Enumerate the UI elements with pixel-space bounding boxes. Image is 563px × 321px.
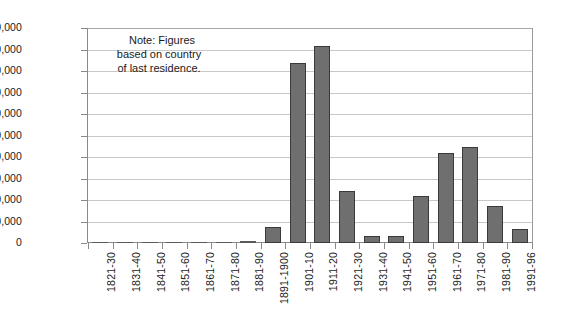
y-axis-label: 120,000 <box>0 107 22 119</box>
bar <box>487 206 503 243</box>
x-axis-tick <box>261 243 262 249</box>
x-axis-label: 1851-60 <box>179 252 191 292</box>
bar-slot <box>507 28 532 243</box>
y-axis-label: 80,000 <box>0 150 22 162</box>
bar-slot <box>335 28 360 243</box>
y-axis-label: 100,000 <box>0 129 22 141</box>
y-axis-tick <box>81 114 87 115</box>
bar <box>166 242 182 243</box>
x-axis-tick <box>359 243 360 249</box>
x-axis-tick <box>285 243 286 249</box>
x-axis-label: 1861-70 <box>204 252 216 292</box>
x-axis-tick <box>88 243 89 249</box>
bar <box>388 236 404 243</box>
bar-slot <box>433 28 458 243</box>
y-axis-label: 40,000 <box>0 193 22 205</box>
bar <box>191 242 207 243</box>
x-axis-tick <box>137 243 138 249</box>
chart-note-line-2: based on country <box>99 47 219 61</box>
x-axis-tick <box>162 243 163 249</box>
y-axis-label: 60,000 <box>0 172 22 184</box>
x-axis-label: 1931-40 <box>377 252 389 292</box>
x-axis-label: 1961-70 <box>451 252 463 292</box>
x-axis-label: 1841-50 <box>155 252 167 292</box>
x-axis-tick <box>113 243 114 249</box>
x-axis-label: 1891-1900 <box>278 252 290 304</box>
bar <box>438 153 454 243</box>
y-axis-tick <box>81 157 87 158</box>
x-axis-label: 1921-30 <box>352 252 364 292</box>
bar <box>314 46 330 243</box>
x-axis-label: 1941-50 <box>401 252 413 292</box>
bar-slot <box>285 28 310 243</box>
x-axis-label: 1911-20 <box>327 252 339 291</box>
x-axis-tick <box>187 243 188 249</box>
y-axis-tick <box>81 243 87 244</box>
y-axis-tick <box>81 179 87 180</box>
bar <box>240 241 256 243</box>
bar-slot <box>483 28 508 243</box>
x-axis-label: 1821-30 <box>105 252 117 292</box>
y-axis-label: 200,000 <box>0 21 22 33</box>
y-axis-tick <box>81 222 87 223</box>
bar <box>413 196 429 243</box>
y-axis-label: 160,000 <box>0 64 22 76</box>
x-axis-tick <box>409 243 410 249</box>
x-axis-label: 1831-40 <box>130 252 142 292</box>
bar-slot <box>409 28 434 243</box>
bar <box>142 242 158 243</box>
y-axis-tick <box>81 28 87 29</box>
x-axis-tick <box>458 243 459 249</box>
y-axis-label: 20,000 <box>0 215 22 227</box>
x-axis-tick <box>384 243 385 249</box>
chart-note: Note: Figures based on country of last r… <box>99 33 219 76</box>
bar-slot <box>384 28 409 243</box>
y-axis-tick <box>81 71 87 72</box>
bar <box>117 242 133 243</box>
y-axis-label: 180,000 <box>0 43 22 55</box>
bar-slot <box>310 28 335 243</box>
x-axis-tick <box>236 243 237 249</box>
y-axis-tick <box>81 200 87 201</box>
x-axis-tick <box>507 243 508 249</box>
x-axis-tick <box>433 243 434 249</box>
x-axis-label: 1901-10 <box>303 252 315 292</box>
bar-chart: 200,000180,000160,000140,000120,000100,0… <box>0 0 563 321</box>
x-axis-label: 1971-80 <box>475 252 487 292</box>
bar <box>364 236 380 243</box>
bar <box>462 147 478 243</box>
bar <box>512 229 528 243</box>
bar-slot <box>359 28 384 243</box>
y-axis-tick <box>81 93 87 94</box>
x-axis-tick <box>310 243 311 249</box>
bar <box>216 242 232 243</box>
x-axis-tick <box>483 243 484 249</box>
x-axis-tick <box>532 243 533 249</box>
x-axis-tick <box>335 243 336 249</box>
bar <box>339 191 355 243</box>
chart-note-line-3: of last residence. <box>99 61 219 75</box>
x-axis-tick <box>211 243 212 249</box>
y-axis-label: 140,000 <box>0 86 22 98</box>
y-axis-tick <box>81 50 87 51</box>
chart-note-line-1: Note: Figures <box>99 33 219 47</box>
bar-slot <box>261 28 286 243</box>
x-axis-label: 1871-80 <box>229 252 241 292</box>
x-axis-label: 1981-90 <box>500 252 512 292</box>
y-axis-tick <box>81 136 87 137</box>
bar <box>265 227 281 243</box>
bar <box>290 63 306 243</box>
bar <box>92 242 108 243</box>
bar-slot <box>458 28 483 243</box>
y-axis-label: 0 <box>0 236 22 248</box>
bar-slot <box>236 28 261 243</box>
x-axis-label: 1951-60 <box>426 252 438 292</box>
x-axis-label: 1991-96 <box>525 252 537 292</box>
x-axis-label: 1881-90 <box>253 252 265 292</box>
